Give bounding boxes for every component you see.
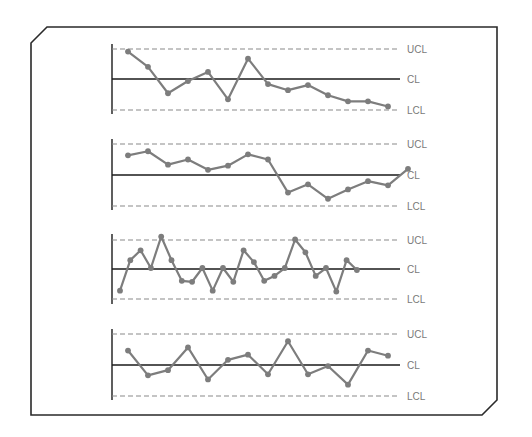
- data-point: [145, 372, 151, 378]
- data-point: [241, 247, 247, 253]
- control-charts-figure: UCLCLLCLUCLCLLCLUCLCLLCLUCLCLLCL: [0, 0, 532, 437]
- data-point: [365, 98, 371, 104]
- data-point: [138, 247, 144, 253]
- data-point: [158, 234, 164, 240]
- data-point: [265, 157, 271, 163]
- data-point: [245, 352, 251, 358]
- data-point: [225, 163, 231, 169]
- data-point: [265, 371, 271, 377]
- data-point: [345, 382, 351, 388]
- data-point: [125, 152, 131, 158]
- data-point: [125, 348, 131, 354]
- figure-frame: [31, 27, 497, 415]
- ucl-label: UCL: [407, 235, 427, 246]
- series-line: [128, 341, 388, 384]
- data-point: [325, 363, 331, 369]
- data-point: [333, 289, 339, 295]
- lcl-label: LCL: [407, 391, 426, 402]
- data-point: [185, 157, 191, 163]
- data-point: [205, 167, 211, 173]
- data-point: [305, 371, 311, 377]
- data-point: [165, 90, 171, 96]
- cl-label: CL: [407, 360, 420, 371]
- control-chart-2: UCLCLLCL: [112, 139, 427, 212]
- data-point: [405, 166, 411, 172]
- ucl-label: UCL: [407, 139, 427, 150]
- data-point: [261, 278, 267, 284]
- series-line: [120, 237, 357, 292]
- data-point: [365, 348, 371, 354]
- data-point: [285, 87, 291, 93]
- control-chart-3: UCLCLLCL: [112, 234, 427, 305]
- data-point: [245, 56, 251, 62]
- data-point: [230, 279, 236, 285]
- data-point: [313, 273, 319, 279]
- data-point: [189, 279, 195, 285]
- control-chart-1: UCLCLLCL: [112, 44, 427, 116]
- data-point: [282, 265, 288, 271]
- data-point: [127, 257, 133, 263]
- control-chart-4: UCLCLLCL: [112, 329, 427, 402]
- data-point: [385, 353, 391, 359]
- data-point: [125, 49, 131, 55]
- lcl-label: LCL: [407, 294, 426, 305]
- data-point: [245, 151, 251, 157]
- data-point: [251, 259, 257, 265]
- data-point: [165, 367, 171, 373]
- data-point: [225, 357, 231, 363]
- lcl-label: LCL: [407, 201, 426, 212]
- data-point: [117, 288, 123, 294]
- data-point: [344, 257, 350, 263]
- ucl-label: UCL: [407, 44, 427, 55]
- data-point: [272, 273, 278, 279]
- cl-label: CL: [407, 74, 420, 85]
- data-point: [165, 162, 171, 168]
- data-point: [385, 182, 391, 188]
- data-point: [210, 288, 216, 294]
- data-point: [305, 82, 311, 88]
- data-point: [220, 265, 226, 271]
- data-point: [200, 265, 206, 271]
- data-point: [303, 249, 309, 255]
- data-point: [385, 104, 391, 110]
- data-point: [185, 78, 191, 84]
- data-point: [345, 187, 351, 193]
- data-point: [205, 69, 211, 75]
- data-point: [265, 81, 271, 87]
- data-point: [185, 345, 191, 351]
- data-point: [292, 237, 298, 243]
- data-point: [205, 377, 211, 383]
- data-point: [285, 190, 291, 196]
- ucl-label: UCL: [407, 329, 427, 340]
- data-point: [345, 98, 351, 104]
- data-point: [354, 267, 360, 273]
- cl-label: CL: [407, 264, 420, 275]
- data-point: [325, 196, 331, 202]
- data-point: [365, 178, 371, 184]
- data-point: [285, 338, 291, 344]
- data-point: [145, 148, 151, 154]
- data-point: [179, 278, 185, 284]
- lcl-label: LCL: [407, 105, 426, 116]
- chart-panels: UCLCLLCLUCLCLLCLUCLCLLCLUCLCLLCL: [112, 44, 427, 402]
- data-point: [148, 265, 154, 271]
- data-point: [169, 257, 175, 263]
- cl-label: CL: [407, 170, 420, 181]
- data-point: [225, 96, 231, 102]
- data-point: [323, 265, 329, 271]
- data-point: [325, 92, 331, 98]
- data-point: [305, 181, 311, 187]
- data-point: [145, 64, 151, 70]
